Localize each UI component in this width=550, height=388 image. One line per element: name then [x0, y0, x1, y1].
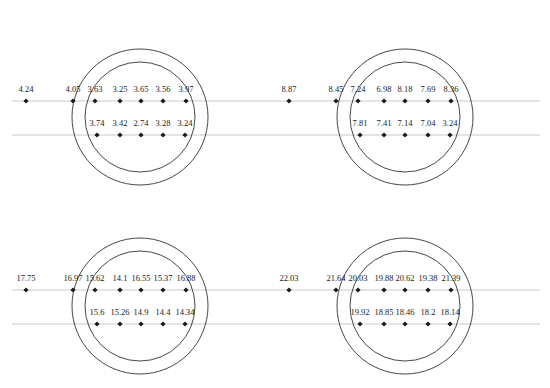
- value-label-row1: 14.1: [113, 273, 128, 283]
- diamond-marker-icon: [447, 321, 452, 326]
- diamond-marker-icon: [425, 321, 430, 326]
- value-label-row2: 7.04: [421, 118, 437, 128]
- value-label-row2: 18.2: [421, 307, 436, 317]
- diamond-marker-icon: [402, 321, 407, 326]
- diamond-marker-icon: [117, 321, 122, 326]
- value-label-row1: 8.45: [329, 84, 344, 94]
- value-label-row1: 7.24: [351, 84, 367, 94]
- inner-circle: [85, 62, 195, 172]
- value-label-row2: 14.4: [156, 307, 172, 317]
- diamond-marker-icon: [94, 132, 99, 137]
- value-label-row1: 3.65: [134, 84, 149, 94]
- value-label-row1: 7.69: [421, 84, 436, 94]
- diamond-marker-icon: [138, 98, 143, 103]
- diamond-marker-icon: [23, 98, 28, 103]
- outer-circle: [72, 49, 208, 185]
- value-label-row1: 16.88: [176, 273, 195, 283]
- value-label-row1: 8.36: [444, 84, 459, 94]
- value-label-row1: 3.25: [113, 84, 128, 94]
- diamond-marker-icon: [183, 287, 188, 292]
- value-label-row2: 3.24: [443, 118, 459, 128]
- diamond-marker-icon: [381, 287, 386, 292]
- value-label-row1: 21.39: [441, 273, 460, 283]
- value-label-row2: 19.92: [350, 307, 369, 317]
- diamond-marker-icon: [381, 132, 386, 137]
- diamond-marker-icon: [448, 287, 453, 292]
- panel-bottom-right: 22.0321.6420.0319.8820.6219.3821.3919.92…: [275, 238, 540, 374]
- value-label-row2: 3.42: [113, 118, 128, 128]
- value-label-row1: 21.64: [326, 273, 346, 283]
- diamond-marker-icon: [138, 287, 143, 292]
- diamond-marker-icon: [138, 132, 143, 137]
- diamond-marker-icon: [160, 287, 165, 292]
- value-label-row2: 18.85: [374, 307, 393, 317]
- value-label-row1: 16.97: [63, 273, 82, 283]
- diamond-marker-icon: [448, 98, 453, 103]
- value-label-row2: 2.74: [134, 118, 150, 128]
- value-label-row2: 15.6: [90, 307, 105, 317]
- diamond-marker-icon: [357, 321, 362, 326]
- diagram-canvas: 4.244.053.633.253.653.563.973.743.422.74…: [0, 0, 550, 388]
- value-label-row1: 19.88: [374, 273, 393, 283]
- value-label-row1: 15.62: [85, 273, 104, 283]
- diamond-marker-icon: [381, 321, 386, 326]
- value-label-row1: 19.38: [418, 273, 437, 283]
- value-label-row1: 4.05: [66, 84, 81, 94]
- value-label-row1: 8.18: [398, 84, 413, 94]
- value-label-row1: 15.37: [153, 273, 172, 283]
- value-label-row2: 14.34: [175, 307, 195, 317]
- diamond-marker-icon: [402, 287, 407, 292]
- diamond-marker-icon: [425, 98, 430, 103]
- diamond-marker-icon: [381, 98, 386, 103]
- diamond-marker-icon: [117, 287, 122, 292]
- diamond-marker-icon: [402, 98, 407, 103]
- value-label-row2: 7.41: [377, 118, 392, 128]
- value-label-row1: 6.98: [377, 84, 392, 94]
- value-label-row2: 18.46: [395, 307, 414, 317]
- panel-top-right: 8.878.457.246.988.187.698.367.817.417.14…: [275, 49, 540, 185]
- value-label-row2: 15.26: [110, 307, 129, 317]
- value-label-row1: 16.55: [131, 273, 150, 283]
- outer-circle: [337, 49, 473, 185]
- value-label-row1: 20.62: [395, 273, 414, 283]
- inner-circle: [85, 251, 195, 361]
- diamond-marker-icon: [182, 321, 187, 326]
- value-label-row1: 17.75: [16, 273, 35, 283]
- diamond-marker-icon: [160, 132, 165, 137]
- value-label-row1: 3.97: [179, 84, 194, 94]
- diamond-marker-icon: [425, 287, 430, 292]
- panel-top-left: 4.244.053.633.253.653.563.973.743.422.74…: [12, 49, 275, 185]
- diamond-marker-icon: [333, 98, 338, 103]
- diamond-marker-icon: [23, 287, 28, 292]
- value-label-row1: 4.24: [19, 84, 35, 94]
- inner-circle: [350, 62, 460, 172]
- diamond-marker-icon: [286, 98, 291, 103]
- inner-circle: [350, 251, 460, 361]
- diamond-marker-icon: [94, 321, 99, 326]
- diamond-marker-icon: [402, 132, 407, 137]
- value-label-row1: 8.87: [282, 84, 297, 94]
- diamond-marker-icon: [138, 321, 143, 326]
- panel-bottom-left: 17.7516.9715.6214.116.5515.3716.8815.615…: [12, 238, 275, 374]
- diamond-marker-icon: [160, 321, 165, 326]
- value-label-row2: 3.74: [90, 118, 106, 128]
- diamond-marker-icon: [117, 98, 122, 103]
- value-label-row1: 22.03: [279, 273, 298, 283]
- outer-circle: [337, 238, 473, 374]
- diamond-marker-icon: [117, 132, 122, 137]
- value-label-row1: 20.03: [348, 273, 367, 283]
- diamond-marker-icon: [447, 132, 452, 137]
- diamond-marker-icon: [183, 98, 188, 103]
- value-label-row2: 7.81: [353, 118, 368, 128]
- diamond-marker-icon: [355, 287, 360, 292]
- diamond-marker-icon: [160, 98, 165, 103]
- diamond-marker-icon: [286, 287, 291, 292]
- diamond-marker-icon: [92, 98, 97, 103]
- value-label-row2: 14.9: [134, 307, 149, 317]
- diamond-marker-icon: [333, 287, 338, 292]
- value-label-row1: 3.63: [88, 84, 103, 94]
- value-label-row2: 3.28: [156, 118, 171, 128]
- diamond-marker-icon: [357, 132, 362, 137]
- diamond-marker-icon: [425, 132, 430, 137]
- value-label-row2: 7.14: [398, 118, 414, 128]
